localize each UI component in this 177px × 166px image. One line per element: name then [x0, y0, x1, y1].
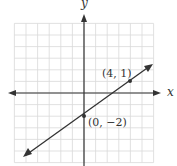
y-axis-up-arrow-icon	[81, 14, 87, 22]
x-axis-label: x	[167, 85, 174, 99]
line-end-arrow-icon	[144, 64, 153, 72]
point-label-0-neg2: (0, −2)	[88, 116, 127, 129]
axes	[8, 14, 161, 166]
point-label-4-1: (4, 1)	[102, 67, 132, 80]
point-0-neg2	[82, 114, 86, 118]
y-axis-label: y	[81, 0, 88, 10]
line-start-arrow-icon	[23, 148, 32, 157]
x-axis-left-arrow-icon	[8, 90, 16, 96]
plotted-line	[23, 64, 153, 157]
coordinate-plane	[0, 0, 177, 166]
x-axis-right-arrow-icon	[153, 90, 161, 96]
